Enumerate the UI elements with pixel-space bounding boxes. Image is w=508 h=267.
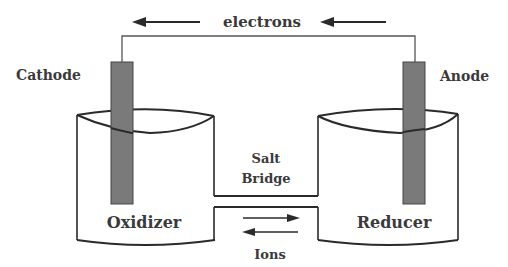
salt-bridge-label-line2: Bridge	[241, 171, 290, 186]
anode-electrode	[403, 62, 425, 204]
salt-bridge	[214, 196, 318, 207]
electrochemical-cell-diagram: electrons Cathode Anode Salt	[0, 0, 508, 267]
electron-arrow-right	[320, 17, 386, 27]
anode-label: Anode	[439, 68, 489, 84]
ion-arrow-right	[243, 214, 300, 222]
salt-bridge-label-line1: Salt	[252, 151, 281, 166]
ions-label: Ions	[254, 247, 286, 262]
cathode-label: Cathode	[16, 67, 81, 83]
external-wire	[122, 36, 415, 63]
reducer-label: Reducer	[357, 213, 432, 232]
oxidizer-label: Oxidizer	[107, 213, 182, 232]
ion-arrow-left	[242, 228, 298, 236]
electrons-label: electrons	[223, 13, 301, 31]
electron-arrow-left	[132, 17, 200, 27]
